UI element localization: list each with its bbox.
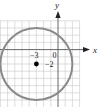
x-axis-label: x [92,45,97,55]
center-y-label: −2 [45,60,54,69]
origin-label: 0 [53,51,57,60]
grid [0,21,80,107]
center-point [34,62,39,67]
coordinate-plane-figure: x y −3 0 −2 [0,0,104,107]
y-axis-label: y [54,0,59,10]
center-x-label: −3 [30,51,39,60]
x-axis-arrow-icon [83,47,90,52]
y-axis-arrow-icon [55,11,60,18]
